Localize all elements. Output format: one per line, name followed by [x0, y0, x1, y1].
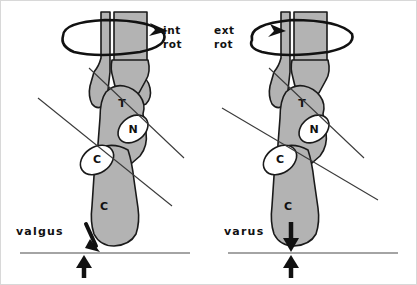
bone-label-navicular-right: N: [309, 123, 318, 136]
bone-label-cuboid-left: C: [93, 153, 101, 166]
bone-label-calcaneus-right: C: [284, 200, 292, 213]
anatomical-figure: T C N C int rot valgus: [0, 0, 417, 285]
rotation-label-line1-left: int: [163, 24, 181, 36]
load-arrow-up-right: [283, 255, 299, 278]
bone-label-cuboid-right: C: [276, 153, 284, 166]
rotation-label-line2-left: rot: [163, 38, 182, 50]
load-arrow-up-left: [76, 255, 92, 278]
diagram-canvas: T C N C int rot valgus: [0, 0, 417, 285]
panel-left: T C N C int rot valgus: [16, 12, 190, 278]
deformity-label-right: varus: [224, 225, 264, 238]
bone-label-calcaneus-left: C: [100, 200, 108, 213]
panel-right: T C N C ext rot varus: [214, 12, 398, 278]
rotation-label-line1-right: ext: [214, 24, 235, 36]
deformity-label-left: valgus: [16, 225, 64, 238]
bone-label-navicular-left: N: [128, 123, 137, 136]
rotation-label-line2-right: rot: [214, 38, 233, 50]
